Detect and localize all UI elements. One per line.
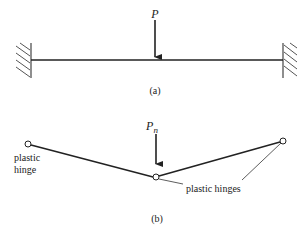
leader-line-mid: [159, 179, 183, 184]
figure-b: Pn plastic hinge plastic hinges (b): [14, 119, 286, 225]
plastic-hinges-label: plastic hinges: [186, 183, 241, 194]
plastic-hinge-left-icon: [25, 141, 31, 147]
leader-line-right: [242, 143, 281, 180]
caption-a: (a): [149, 85, 160, 97]
right-fixed-support: [283, 43, 297, 78]
caption-b: (b): [151, 213, 163, 225]
left-hinge-label-line2: hinge: [14, 164, 37, 175]
plastic-hinge-mid-icon: [153, 174, 159, 180]
left-fixed-support: [16, 43, 31, 78]
figure-a: P (a): [16, 7, 297, 97]
beam-diagram: P (a) Pn plastic hinge plastic hinges (b…: [0, 0, 308, 228]
left-hinge-label-line1: plastic: [14, 152, 41, 163]
beam-segment-left: [31, 145, 153, 177]
load-label-pn: Pn: [145, 119, 158, 135]
beam-segment-right: [159, 142, 280, 176]
load-label-p: P: [150, 7, 159, 21]
